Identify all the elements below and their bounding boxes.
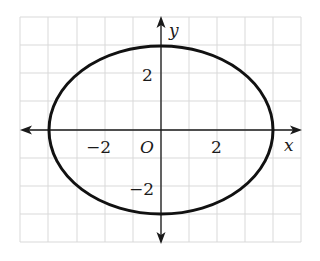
- x-tick-label-neg2: −2: [86, 137, 111, 157]
- y-tick-label-2: 2: [142, 65, 153, 85]
- x-tick-label-2: 2: [211, 137, 222, 157]
- x-axis-label: x: [284, 135, 294, 155]
- origin-label: O: [140, 137, 154, 157]
- y-tick-label-neg2: −2: [129, 179, 154, 199]
- ellipse-graph: y x O −2 2 2 −2: [0, 0, 320, 261]
- y-axis-label: y: [168, 20, 179, 40]
